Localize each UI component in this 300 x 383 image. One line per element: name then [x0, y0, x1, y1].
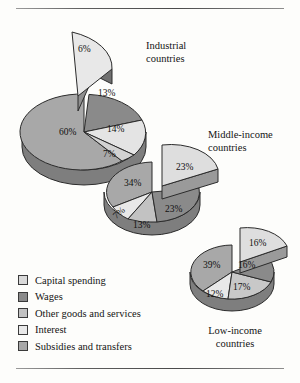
legend-label-capital-spending: Capital spending	[35, 275, 106, 286]
pie-title-industrial-line1: Industrial	[146, 40, 186, 53]
low-pct-12: 12%	[206, 289, 224, 299]
legend-swatch-capital-spending	[18, 275, 28, 285]
industrial-pct-14: 14%	[107, 124, 125, 134]
legend-item-capital-spending: Capital spending	[18, 272, 141, 289]
pie-title-low-income: Low-income countries	[189, 325, 281, 350]
middle-pct-13: 13%	[133, 220, 151, 230]
low-pct-16-wages: 16%	[238, 260, 256, 270]
figure-panel: 60% 13% 14% 7% 6% 34% 7% 13% 23%	[0, 0, 300, 383]
low-pct-39: 39%	[203, 260, 221, 270]
pie-title-middle-line2: countries	[208, 142, 273, 155]
industrial-pct-13: 13%	[98, 88, 116, 98]
legend-label-other-goods-and-services: Other goods and services	[35, 308, 141, 319]
low-pct-16-capital: 16%	[249, 238, 267, 248]
legend-item-subsidies-and-transfers: Subsidies and transfers	[18, 338, 141, 355]
low-pct-17: 17%	[233, 282, 251, 292]
middle-pct-34: 34%	[124, 178, 142, 188]
middle-pct-23-wages: 23%	[165, 204, 183, 214]
pie-title-industrial: Industrial countries	[146, 40, 186, 65]
pie-title-low-line2: countries	[189, 338, 281, 351]
pie-low-income: 39% 12% 17% 16% 16%	[190, 228, 287, 311]
industrial-pct-60: 60%	[59, 127, 77, 137]
legend-label-interest: Interest	[35, 324, 67, 335]
industrial-pct-6: 6%	[78, 44, 91, 54]
legend-swatch-wages	[18, 292, 28, 302]
industrial-pct-7: 7%	[103, 149, 116, 159]
legend-item-wages: Wages	[18, 289, 141, 306]
legend-label-subsidies-and-transfers: Subsidies and transfers	[35, 341, 132, 352]
legend-swatch-other-goods-and-services	[18, 308, 28, 318]
legend-item-other-goods-and-services: Other goods and services	[18, 305, 141, 322]
legend-swatch-interest	[18, 325, 28, 335]
legend: Capital spending Wages Other goods and s…	[18, 272, 141, 355]
legend-swatch-subsidies-and-transfers	[18, 341, 28, 351]
middle-pct-23-capital: 23%	[176, 162, 194, 172]
pie-title-middle-income: Middle-income countries	[208, 129, 273, 154]
pie-title-low-line1: Low-income	[189, 325, 281, 338]
legend-item-interest: Interest	[18, 322, 141, 339]
pie-title-industrial-line2: countries	[146, 53, 186, 66]
pie-industrial: 60% 13% 14% 7% 6%	[20, 32, 146, 185]
legend-label-wages: Wages	[35, 291, 63, 302]
pie-title-middle-line1: Middle-income	[208, 129, 273, 142]
